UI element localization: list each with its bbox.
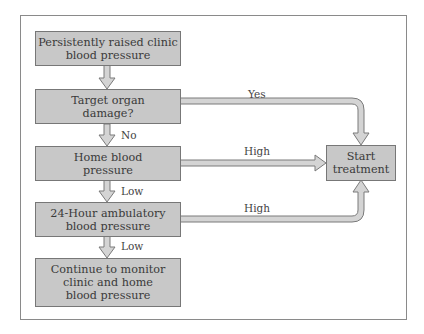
arrow-clinic-to-organ — [99, 65, 115, 89]
edge-label-no: No — [121, 129, 137, 141]
edge-label-low-1: Low — [121, 185, 143, 197]
arrow-organ-to-home — [99, 124, 115, 146]
node-text: blood pressure — [66, 220, 151, 233]
node-text: blood pressure — [66, 289, 151, 302]
node-clinic-bp: Persistently raised clinicblood pressure — [35, 31, 181, 66]
arrow-ambulatory-to-treat — [180, 180, 369, 222]
node-text: damage? — [83, 107, 134, 120]
node-text: 24-Hour ambulatory — [50, 207, 165, 220]
node-ambulatory-bp: 24-Hour ambulatoryblood pressure — [35, 202, 181, 237]
node-text: blood pressure — [66, 49, 151, 62]
arrow-organ-to-treat — [180, 98, 369, 145]
node-text: pressure — [83, 164, 133, 177]
node-text: Home blood — [74, 151, 143, 164]
arrow-home-to-treat — [180, 155, 326, 171]
edge-label-yes: Yes — [248, 88, 266, 100]
node-text: Persistently raised clinic — [38, 36, 177, 49]
arrow-ambulatory-to-monitor — [99, 236, 115, 258]
node-text: Start — [347, 150, 376, 163]
node-continue-monitor: Continue to monitorclinic and homeblood … — [35, 258, 181, 307]
node-start-treatment: Starttreatment — [326, 145, 396, 181]
node-target-organ-damage: Target organdamage? — [35, 89, 181, 124]
edge-label-high-2: High — [244, 202, 270, 214]
node-text: Target organ — [71, 94, 145, 107]
arrow-home-to-ambulatory — [99, 180, 115, 202]
node-home-bp: Home bloodpressure — [35, 146, 181, 181]
node-text: Continue to monitor — [51, 263, 166, 276]
node-text: treatment — [333, 163, 390, 176]
edge-label-high-1: High — [244, 145, 270, 157]
node-text: clinic and home — [63, 276, 153, 289]
edge-label-low-2: Low — [121, 240, 143, 252]
